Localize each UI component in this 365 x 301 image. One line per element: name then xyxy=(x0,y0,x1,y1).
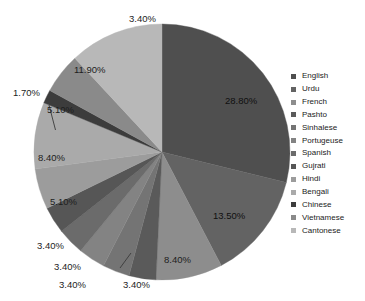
legend-item-pashto[interactable]: Pashto xyxy=(291,109,365,122)
legend-item-portugeuse[interactable]: Portugeuse xyxy=(291,134,365,147)
value-label-urdu: 13.50% xyxy=(213,210,246,221)
legend-item-spanish[interactable]: Spanish xyxy=(291,147,365,160)
legend-swatch-icon xyxy=(291,215,296,220)
chart-legend: EnglishUrduFrenchPashtoSinhalesePortugeu… xyxy=(291,70,365,237)
legend-swatch-icon xyxy=(291,74,296,79)
value-label-hindi: 5.10% xyxy=(50,196,77,207)
value-label-english: 28.80% xyxy=(225,95,258,106)
legend-item-urdu[interactable]: Urdu xyxy=(291,83,365,96)
value-label-french: 8.40% xyxy=(164,254,191,265)
legend-swatch-icon xyxy=(291,164,296,169)
legend-swatch-icon xyxy=(291,87,296,92)
value-label-cantonese-top: 3.40% xyxy=(129,13,156,24)
legend-item-label: Sinhalese xyxy=(302,124,337,132)
legend-swatch-icon xyxy=(291,112,296,117)
value-label-chinese: 1.70% xyxy=(13,87,40,98)
legend-item-chinese[interactable]: Chinese xyxy=(291,198,365,211)
legend-item-label: Hindi xyxy=(302,175,320,183)
value-label-cantonese: 11.90% xyxy=(74,64,106,75)
legend-swatch-icon xyxy=(291,202,296,207)
legend-item-bengali[interactable]: Bengali xyxy=(291,186,365,199)
legend-swatch-icon xyxy=(291,190,296,195)
legend-item-french[interactable]: French xyxy=(291,96,365,109)
legend-item-label: Vietnamese xyxy=(302,214,344,222)
value-label-bengali: 8.40% xyxy=(38,152,65,163)
legend-swatch-icon xyxy=(291,228,296,233)
legend-item-label: French xyxy=(302,98,327,106)
legend-swatch-icon xyxy=(291,151,296,156)
legend-item-label: Pashto xyxy=(302,111,327,119)
legend-item-label: Bengali xyxy=(302,188,329,196)
pie-slices-group xyxy=(34,24,290,280)
legend-item-label: English xyxy=(302,72,328,80)
legend-item-label: Gujrati xyxy=(302,162,326,170)
legend-item-label: Portugeuse xyxy=(302,137,343,145)
legend-item-gujrati[interactable]: Gujrati xyxy=(291,160,365,173)
legend-swatch-icon xyxy=(291,138,296,143)
legend-item-cantonese[interactable]: Cantonese xyxy=(291,224,365,237)
value-label-pashto: 3.40% xyxy=(123,279,150,290)
legend-swatch-icon xyxy=(291,125,296,130)
legend-item-sinhalese[interactable]: Sinhalese xyxy=(291,121,365,134)
legend-swatch-icon xyxy=(291,177,296,182)
legend-item-english[interactable]: English xyxy=(291,70,365,83)
legend-item-hindi[interactable]: Hindi xyxy=(291,173,365,186)
value-label-spanish: 3.40% xyxy=(37,240,64,251)
value-label-portugeuse: 3.40% xyxy=(54,261,81,272)
legend-item-label: Spanish xyxy=(302,149,331,157)
legend-item-label: Chinese xyxy=(302,201,331,209)
legend-item-vietnamese[interactable]: Vietnamese xyxy=(291,211,365,224)
legend-item-label: Cantonese xyxy=(302,227,341,235)
value-label-vietnamese: 5.10% xyxy=(47,104,74,115)
legend-swatch-icon xyxy=(291,100,296,105)
value-label-sinhalese: 3.40% xyxy=(59,279,86,290)
legend-item-label: Urdu xyxy=(302,85,319,93)
pie-chart-figure: 3.40% 28.80% 13.50% 8.40% 3.40% 3.40% 3.… xyxy=(0,0,365,301)
